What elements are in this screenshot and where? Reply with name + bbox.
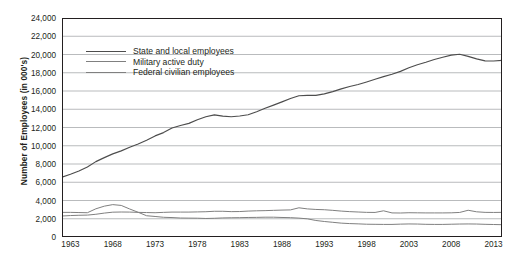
y-tick-label: 4,000	[36, 196, 57, 205]
y-tick-label: 22,000	[31, 32, 56, 41]
legend-swatch-federal-civilian	[86, 72, 126, 73]
legend-label-military-active-duty: Military active duty	[133, 57, 204, 68]
x-tick-label: 1968	[104, 240, 122, 249]
legend-label-federal-civilian: Federal civilian employees	[133, 67, 234, 78]
chart-legend: State and local employees Military activ…	[86, 46, 234, 78]
legend-swatch-state-and-local	[86, 51, 126, 52]
y-tick-label: 20,000	[31, 50, 56, 59]
y-tick-label: 8,000	[36, 160, 57, 169]
y-axis-tick-labels: 02,0004,0006,0008,00010,00012,00014,0001…	[0, 18, 56, 237]
x-tick-label: 1993	[315, 240, 333, 249]
employment-line-chart: Number of Employees (in 000's) 02,0004,0…	[0, 0, 509, 259]
x-tick-label: 2013	[484, 240, 502, 249]
legend-label-state-and-local: State and local employees	[133, 46, 234, 57]
y-tick-label: 2,000	[36, 214, 57, 223]
legend-item-military-active-duty: Military active duty	[86, 57, 234, 68]
y-tick-label: 16,000	[31, 87, 56, 96]
x-tick-label: 1963	[61, 240, 79, 249]
y-tick-label: 6,000	[36, 178, 57, 187]
x-tick-label: 1978	[188, 240, 206, 249]
y-tick-label: 10,000	[31, 141, 56, 150]
x-tick-label: 2008	[442, 240, 460, 249]
y-tick-label: 14,000	[31, 105, 56, 114]
x-axis-tick-labels: 1963196819731978198319881993199820032008…	[62, 238, 502, 256]
legend-item-state-and-local: State and local employees	[86, 46, 234, 57]
x-tick-label: 2003	[400, 240, 418, 249]
y-tick-label: 24,000	[31, 14, 56, 23]
y-tick-label: 18,000	[31, 68, 56, 77]
x-tick-label: 1988	[273, 240, 291, 249]
legend-item-federal-civilian: Federal civilian employees	[86, 67, 234, 78]
x-tick-label: 1998	[358, 240, 376, 249]
x-tick-label: 1983	[231, 240, 249, 249]
y-tick-label: 12,000	[31, 123, 56, 132]
x-tick-label: 1973	[146, 240, 164, 249]
series-lines	[62, 54, 502, 224]
y-tick-label: 0	[51, 233, 56, 242]
legend-swatch-military-active-duty	[86, 61, 126, 62]
